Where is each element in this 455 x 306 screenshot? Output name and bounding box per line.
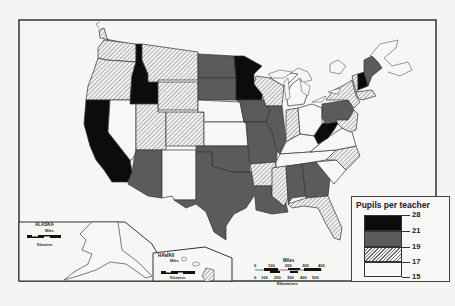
legend-tick bbox=[402, 277, 410, 278]
legend-break-19: 19 bbox=[412, 242, 420, 251]
legend-tick bbox=[402, 231, 410, 232]
scale-km-tick-200: 200 bbox=[274, 275, 281, 280]
state-kansas[interactable] bbox=[204, 122, 248, 146]
hawaii-miles-label: Miles bbox=[170, 259, 179, 263]
state-north-dakota[interactable] bbox=[198, 54, 236, 78]
state-wyoming[interactable] bbox=[158, 82, 198, 110]
legend-break-17: 17 bbox=[412, 257, 420, 266]
alaska-label: ALASKA bbox=[35, 222, 54, 227]
legend-break-15: 15 bbox=[412, 272, 420, 281]
scale-km-tick-300: 300 bbox=[287, 275, 294, 280]
scale-km-tick-400: 400 bbox=[300, 275, 307, 280]
map-legend: Pupils per teacher 28 21 19 17 15 bbox=[351, 196, 450, 282]
state-new-mexico[interactable] bbox=[162, 150, 196, 200]
legend-tick bbox=[402, 262, 410, 263]
scale-mile-tick-200: 200 bbox=[285, 263, 292, 268]
legend-swatch-17-19 bbox=[364, 247, 402, 262]
scale-km-tick-100: 100 bbox=[261, 275, 268, 280]
hawaii-km-label: Kilometres bbox=[170, 276, 186, 280]
legend-title: Pupils per teacher bbox=[356, 200, 430, 210]
legend-tick bbox=[402, 247, 410, 248]
hawaii-island-maui[interactable] bbox=[193, 262, 200, 266]
legend-break-21: 21 bbox=[412, 226, 420, 235]
state-washington-main[interactable] bbox=[98, 40, 136, 62]
alaska-miles-label: Miles bbox=[45, 229, 54, 233]
legend-swatch-15-17 bbox=[364, 262, 402, 277]
alaska-km-label: Kilometres bbox=[37, 243, 53, 247]
hawaii-island-kauai[interactable] bbox=[164, 252, 168, 255]
scale-km-tick-500: 500 bbox=[312, 275, 319, 280]
scale-mile-tick-300: 300 bbox=[302, 263, 309, 268]
scale-mile-tick-100: 100 bbox=[268, 263, 275, 268]
scale-km-label: Kilometres bbox=[277, 281, 298, 286]
legend-tick bbox=[402, 215, 410, 216]
state-south-dakota[interactable] bbox=[198, 78, 236, 100]
state-colorado[interactable] bbox=[166, 112, 204, 146]
legend-swatch-21-28 bbox=[364, 215, 402, 231]
legend-swatch-19-21 bbox=[364, 231, 402, 247]
hawaii-island-oahu[interactable] bbox=[182, 257, 187, 261]
legend-break-28: 28 bbox=[412, 210, 420, 219]
scale-mile-tick-400: 400 bbox=[318, 263, 325, 268]
state-nebraska[interactable] bbox=[198, 100, 244, 122]
